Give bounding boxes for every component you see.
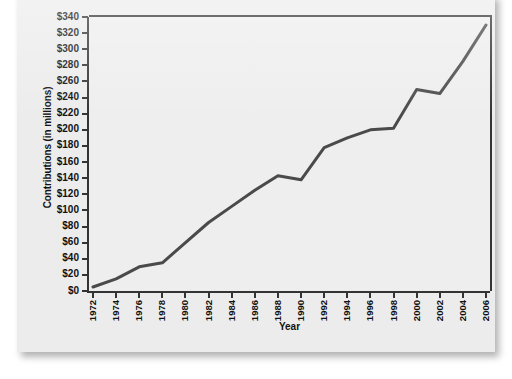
x-axis-tick-mark: [208, 292, 210, 298]
x-axis-tick-mark: [416, 292, 418, 298]
y-axis-tick-label: $160: [57, 157, 79, 168]
x-axis-title: Year: [89, 321, 490, 332]
x-axis-tick-mark: [439, 292, 441, 298]
y-axis-tick-label: $80: [62, 221, 79, 232]
y-axis-tick-label: $340: [57, 12, 79, 23]
y-axis-tick-label: $60: [62, 237, 79, 248]
y-axis-tick-mark: [82, 97, 88, 99]
chart-figure-card: Contributions (in millions) $340$320$300…: [17, 0, 495, 352]
x-axis-tick-mark: [346, 292, 348, 298]
y-axis-tick-label: $260: [57, 76, 79, 87]
x-axis-tick-label: 2004: [458, 300, 468, 321]
y-axis-tick-mark: [82, 16, 88, 18]
x-axis-tick-label: 1990: [296, 300, 306, 321]
x-axis-tick-mark: [115, 292, 117, 298]
x-axis-tick-mark: [254, 292, 256, 298]
y-axis-tick-mark: [82, 48, 88, 50]
y-axis-tick-label: $200: [57, 124, 79, 135]
x-axis-tick-mark: [393, 292, 395, 298]
y-axis-tick-label: $280: [57, 60, 79, 71]
y-axis-tick-label: $240: [57, 92, 79, 103]
y-axis-tick-mark: [82, 64, 88, 66]
x-axis-tick-label: 1980: [181, 300, 191, 321]
x-axis-tick-mark: [369, 292, 371, 298]
y-axis-tick-mark: [82, 129, 88, 131]
contributions-line: [93, 25, 486, 287]
x-axis-tick-mark: [300, 292, 302, 298]
plot-area: $340$320$300$280$260$240$220$200$180$160…: [89, 15, 492, 291]
x-axis-tick-label: 2002: [435, 300, 445, 321]
x-axis-tick-label: 1982: [204, 300, 214, 321]
x-axis-tick-label: 1978: [158, 300, 168, 321]
x-axis-tick-label: 2006: [481, 300, 491, 321]
x-axis-tick-label: 1972: [88, 300, 98, 321]
x-axis-tick-label: 2000: [412, 300, 422, 321]
y-axis-tick-mark: [82, 32, 88, 34]
x-axis-tick-label: 1994: [343, 300, 353, 321]
y-axis-tick-label: $100: [57, 205, 79, 216]
y-axis-tick-label: $140: [57, 173, 79, 184]
x-axis-tick-mark: [184, 292, 186, 298]
y-axis-title-label: Contributions (in millions): [43, 86, 54, 208]
y-axis-tick-mark: [82, 242, 88, 244]
data-line-svg: [89, 17, 490, 291]
y-axis-tick-label: $300: [57, 44, 79, 55]
x-axis-tick-mark: [231, 292, 233, 298]
y-axis-tick-label: $220: [57, 108, 79, 119]
y-axis-tick-label: $120: [57, 189, 79, 200]
y-axis-tick-mark: [82, 226, 88, 228]
x-axis-tick-label: 1996: [366, 300, 376, 321]
x-axis-tick-mark: [138, 292, 140, 298]
x-axis-tick-mark: [161, 292, 163, 298]
y-axis-tick-mark: [82, 161, 88, 163]
x-axis-tick-mark: [92, 292, 94, 298]
y-axis-tick-label: $0: [68, 286, 79, 297]
y-axis-tick-mark: [82, 193, 88, 195]
x-axis-tick-label: 1992: [319, 300, 329, 321]
x-axis-tick-label: 1986: [250, 300, 260, 321]
y-axis-tick-label: $40: [62, 253, 79, 264]
y-axis-tick-mark: [82, 177, 88, 179]
y-axis-tick-label: $20: [62, 269, 79, 280]
y-axis-tick-mark: [82, 113, 88, 115]
x-axis-tick-label: 1984: [227, 300, 237, 321]
y-axis-tick-mark: [82, 80, 88, 82]
y-axis-tick-mark: [82, 145, 88, 147]
x-axis-tick-mark: [485, 292, 487, 298]
x-axis-tick-mark: [462, 292, 464, 298]
y-axis-tick-mark: [82, 274, 88, 276]
y-axis-title: Contributions (in millions): [40, 8, 56, 286]
x-axis-tick-label: 1998: [389, 300, 399, 321]
y-axis-tick-mark: [82, 209, 88, 211]
x-axis-tick-mark: [277, 292, 279, 298]
x-axis-tick-label: 1976: [134, 300, 144, 321]
x-axis-tick-label: 1988: [273, 300, 283, 321]
y-axis-tick-label: $180: [57, 140, 79, 151]
y-axis-tick-label: $320: [57, 28, 79, 39]
y-axis-tick-mark: [82, 258, 88, 260]
x-axis-tick-label: 1974: [111, 300, 121, 321]
x-axis-tick-mark: [323, 292, 325, 298]
y-axis-tick-mark: [82, 290, 88, 292]
